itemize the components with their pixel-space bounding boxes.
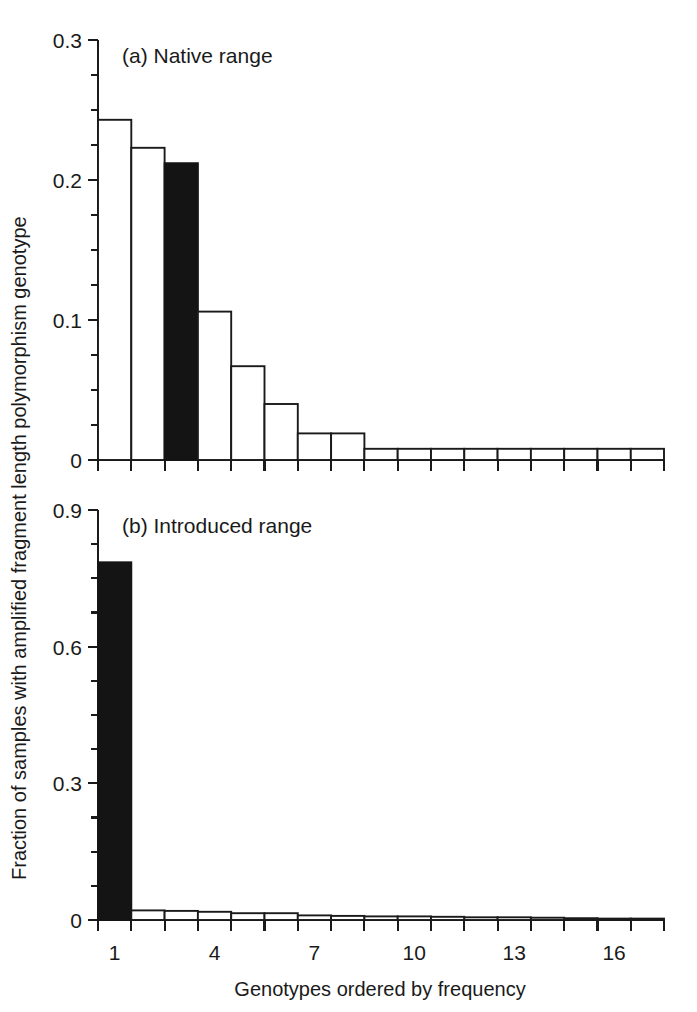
xtick-label-1: 1: [109, 941, 121, 964]
panel-a-ytick-1: 0.1: [53, 309, 82, 332]
bar-b-7: [298, 915, 331, 920]
bar-b-17: [631, 919, 664, 920]
panel-b-ytick-0: 0: [70, 909, 82, 932]
bar-a-16: [598, 449, 631, 460]
bar-b-8: [331, 916, 364, 920]
bar-b-16: [598, 919, 631, 920]
bar-b-10: [398, 916, 431, 920]
panel-a-ytick-2: 0.2: [53, 169, 82, 192]
bar-a-9: [364, 449, 397, 460]
panel-a-ytick-3: 0.3: [53, 29, 82, 52]
x-axis-title: Genotypes ordered by frequency: [234, 978, 525, 1000]
bar-a-5: [231, 366, 264, 460]
chart-svg: Fraction of samples with amplified fragm…: [0, 0, 697, 1012]
panel-b-label: (b) Introduced range: [122, 514, 312, 537]
xtick-label-10: 10: [403, 941, 426, 964]
bar-b-9: [364, 916, 397, 920]
bar-b-3: [165, 911, 198, 920]
bar-a-12: [464, 449, 497, 460]
figure-container: Fraction of samples with amplified fragm…: [0, 0, 697, 1012]
panel-b-ytick-3: 0.9: [53, 499, 82, 522]
bar-a-2: [131, 148, 164, 460]
panel-b-ytick-1: 0.3: [53, 772, 82, 795]
bar-a-8: [331, 433, 364, 460]
xtick-label-4: 4: [209, 941, 221, 964]
panel-a-ytick-0: 0: [70, 449, 82, 472]
bar-a-3: [165, 163, 198, 460]
bar-b-12: [464, 917, 497, 920]
bar-a-10: [398, 449, 431, 460]
bar-b-11: [431, 917, 464, 920]
bar-a-4: [198, 312, 231, 460]
bar-b-4: [198, 912, 231, 920]
bar-b-6: [265, 913, 298, 920]
panel-b-ytick-2: 0.6: [53, 636, 82, 659]
bar-a-6: [265, 404, 298, 460]
bar-a-1: [98, 120, 131, 460]
xtick-label-7: 7: [309, 941, 321, 964]
bar-a-17: [631, 449, 664, 460]
panel-a-label: (a) Native range: [122, 44, 273, 67]
y-axis-title: Fraction of samples with amplified fragm…: [8, 216, 30, 880]
bar-a-11: [431, 449, 464, 460]
xtick-label-13: 13: [503, 941, 526, 964]
bar-b-13: [498, 917, 531, 920]
bar-a-13: [498, 449, 531, 460]
bar-b-14: [531, 918, 564, 920]
bar-b-1: [98, 562, 131, 920]
bar-b-15: [564, 918, 597, 920]
bar-a-15: [564, 449, 597, 460]
bar-a-14: [531, 449, 564, 460]
xtick-label-16: 16: [602, 941, 625, 964]
bar-b-2: [131, 910, 164, 920]
bar-b-5: [231, 913, 264, 920]
bar-a-7: [298, 433, 331, 460]
